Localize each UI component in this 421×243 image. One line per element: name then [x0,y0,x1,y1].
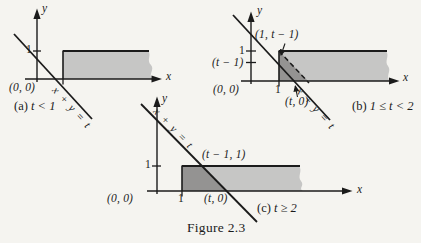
panel-a-y-axis-arrow-icon [33,9,40,20]
panel-b-x-tick-label-1: 1 [275,84,281,96]
panel-b-point-label-top: (1, t − 1) [255,29,299,41]
panel-c-y-axis-label: y [162,93,167,105]
figure-page: { "figure": { "caption": "Figure 2.3" },… [0,0,421,243]
panel-a-y-axis-label: y [42,3,47,15]
panel-b-x-axis-arrow-icon [389,77,400,84]
panel-b-y-tick-label-t-minus-1: (t − 1) [212,57,244,69]
panel-b-origin-label: (0, 0) [213,84,239,96]
panel-a-x-axis-label: x [166,71,171,83]
panel-a-x-axis-arrow-icon [152,75,163,82]
panel-b-caption-label: (b) [352,99,367,113]
panel-c-point-label-top: (t − 1, 1) [202,149,246,161]
figure-canvas [0,0,421,243]
panel-a-y-tick-label-1: 1 [26,44,32,56]
panel-c-caption: (c) t ≥ 2 [257,201,297,216]
panel-c-line-x-plus-y-equals-t [141,104,257,222]
panel-c-x-axis-arrow-icon [342,187,353,194]
panel-c-caption-condition: t ≥ 2 [274,201,297,215]
figure-caption: Figure 2.3 [187,220,246,236]
panel-c-x-tick-label-1: 1 [178,193,184,205]
panel-c-point-label-bottom: (t, 0) [204,193,228,205]
panel-b-y-tick-label-1: 1 [239,45,245,57]
panel-a-caption: (a) t < 1 [14,99,55,114]
panel-a-caption-condition: t < 1 [31,99,55,113]
panel-c-origin-label: (0, 0) [107,193,133,205]
panel-b-x-axis-label: x [403,72,408,84]
panel-b-y-axis-label: y [257,5,262,17]
panel-b-caption-condition: 1 ≤ t < 2 [370,99,414,113]
panel-c-x-axis-label: x [357,184,362,196]
panel-b-caption: (b) 1 ≤ t < 2 [352,99,413,114]
panel-a-caption-label: (a) [14,99,28,113]
panel-a-origin-label: (0, 0) [9,82,35,94]
panel-c-caption-label: (c) [257,201,271,215]
panel-c-y-tick-label-1: 1 [145,159,151,171]
panel-a-shaded-strip [63,51,152,79]
panel-b-y-axis-arrow-icon [247,12,254,23]
